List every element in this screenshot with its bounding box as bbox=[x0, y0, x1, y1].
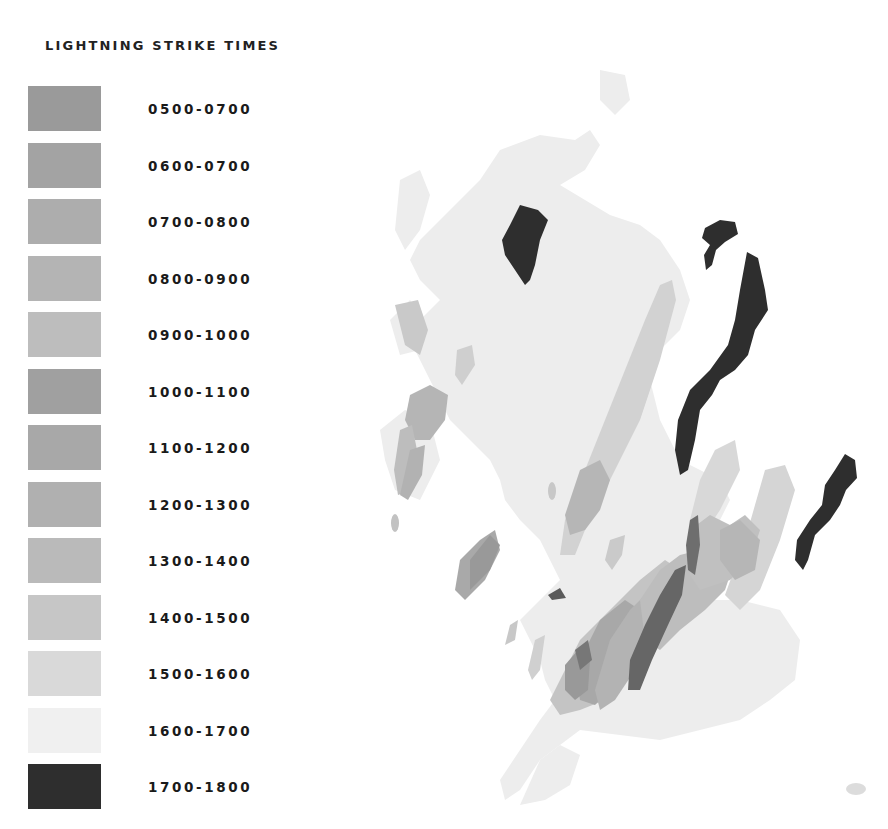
legend-label: 1600-1700 bbox=[148, 723, 252, 739]
legend-swatch bbox=[28, 482, 101, 527]
legend-label: 1700-1800 bbox=[148, 779, 252, 795]
legend-swatch bbox=[28, 199, 101, 244]
lightning-map bbox=[360, 60, 888, 829]
legend: 0500-0700 0600-0700 0700-0800 0800-0900 … bbox=[28, 86, 278, 821]
legend-label: 1000-1100 bbox=[148, 384, 252, 400]
legend-item: 1000-1100 bbox=[28, 369, 278, 426]
legend-label: 0900-1000 bbox=[148, 327, 252, 343]
legend-title: LIGHTNING STRIKE TIMES bbox=[45, 38, 280, 53]
legend-item: 0800-0900 bbox=[28, 256, 278, 313]
legend-label: 0600-0700 bbox=[148, 158, 252, 174]
legend-swatch bbox=[28, 256, 101, 301]
legend-swatch bbox=[28, 651, 101, 696]
legend-label: 0500-0700 bbox=[148, 101, 252, 117]
legend-item: 0500-0700 bbox=[28, 86, 278, 143]
legend-item: 1400-1500 bbox=[28, 595, 278, 652]
legend-item: 1100-1200 bbox=[28, 425, 278, 482]
legend-item: 1300-1400 bbox=[28, 538, 278, 595]
legend-label: 1300-1400 bbox=[148, 553, 252, 569]
legend-swatch bbox=[28, 764, 101, 809]
legend-swatch bbox=[28, 369, 101, 414]
legend-swatch bbox=[28, 86, 101, 131]
legend-swatch bbox=[28, 538, 101, 583]
legend-label: 1500-1600 bbox=[148, 666, 252, 682]
legend-item: 0700-0800 bbox=[28, 199, 278, 256]
legend-label: 0700-0800 bbox=[148, 214, 252, 230]
legend-swatch bbox=[28, 143, 101, 188]
legend-item: 0600-0700 bbox=[28, 143, 278, 200]
legend-swatch bbox=[28, 425, 101, 470]
legend-label: 1400-1500 bbox=[148, 610, 252, 626]
legend-item: 0900-1000 bbox=[28, 312, 278, 369]
legend-item: 1500-1600 bbox=[28, 651, 278, 708]
legend-item: 1200-1300 bbox=[28, 482, 278, 539]
legend-label: 1200-1300 bbox=[148, 497, 252, 513]
legend-item: 1700-1800 bbox=[28, 764, 278, 821]
legend-label: 0800-0900 bbox=[148, 271, 252, 287]
legend-swatch bbox=[28, 708, 101, 753]
legend-label: 1100-1200 bbox=[148, 440, 252, 456]
legend-swatch bbox=[28, 595, 101, 640]
legend-swatch bbox=[28, 312, 101, 357]
legend-item: 1600-1700 bbox=[28, 708, 278, 765]
